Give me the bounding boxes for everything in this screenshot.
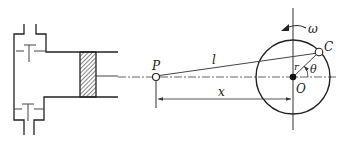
theta-arc bbox=[304, 66, 308, 77]
slider-crank-diagram: P l C O r θ ω x bbox=[0, 0, 345, 145]
intake-valve bbox=[16, 45, 46, 62]
label-theta: θ bbox=[310, 63, 317, 76]
cylinder-bottom-wall bbox=[34, 97, 118, 135]
cylinder-head bbox=[14, 24, 118, 135]
label-omega: ω bbox=[308, 22, 318, 36]
piston bbox=[80, 52, 96, 97]
label-O: O bbox=[296, 82, 306, 96]
label-P: P bbox=[151, 59, 161, 73]
cylinder-top-wall bbox=[36, 24, 118, 52]
label-C: C bbox=[324, 40, 333, 54]
omega-arrowhead bbox=[281, 24, 289, 31]
piston-pin-P bbox=[153, 74, 160, 81]
crank-pin-C bbox=[315, 48, 323, 56]
crank-center-O bbox=[290, 74, 297, 81]
label-r: r bbox=[294, 61, 300, 72]
label-x: x bbox=[218, 85, 225, 99]
exhaust-valve bbox=[14, 104, 44, 121]
label-l: l bbox=[212, 53, 216, 67]
cylinder-head-outer-wall bbox=[14, 24, 24, 135]
